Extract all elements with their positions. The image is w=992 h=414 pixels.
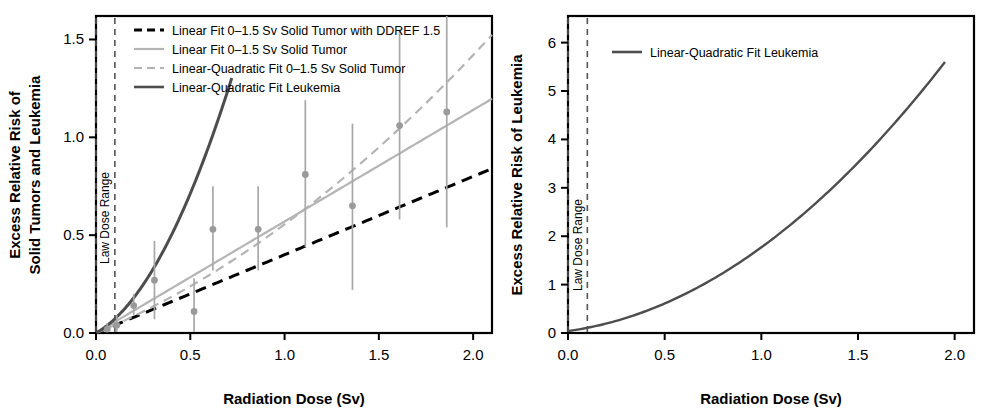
- x-tick-label: 1.0: [274, 346, 295, 363]
- data-point: [130, 302, 137, 309]
- series-line-linquad-solid-tumor: [96, 35, 492, 333]
- y-tick-label: 4: [548, 130, 556, 147]
- low-dose-range-label: Law Dose Range: [98, 172, 112, 264]
- plot-frame: [568, 16, 974, 333]
- x-tick-label: 0.0: [558, 346, 579, 363]
- y-tick-label: 3: [548, 179, 556, 196]
- y-tick-label: 1.0: [63, 128, 84, 145]
- data-point: [255, 226, 262, 233]
- y-tick-label: 5: [548, 82, 556, 99]
- legend-label: Linear-Quadratic Fit Leukemia: [172, 81, 340, 95]
- series-group: [96, 35, 492, 333]
- left-plot-svg: Law Dose Range 0.00.51.01.52.0 0.00.51.0…: [0, 0, 500, 414]
- legend: Linear-Quadratic Fit Leukemia: [612, 46, 818, 60]
- y-tick-label: 1.5: [63, 30, 84, 47]
- y-tick-label: 0.0: [63, 324, 84, 341]
- chart-panel-left: Law Dose Range 0.00.51.01.52.0 0.00.51.0…: [0, 0, 500, 414]
- y-tick-label: 1: [548, 276, 556, 293]
- x-tick-label: 2.0: [463, 346, 484, 363]
- y-tick-label: 2: [548, 227, 556, 244]
- x-tick-label: 0.5: [654, 346, 675, 363]
- data-point: [302, 171, 309, 178]
- y-tick-labels: 0.00.51.01.5: [63, 30, 84, 341]
- data-point: [104, 326, 111, 333]
- series-line-linquad-leukemia: [568, 62, 945, 331]
- y-tick-labels: 0123456: [548, 34, 556, 341]
- low-dose-range-label: Law Dose Range: [571, 199, 585, 291]
- data-point: [396, 122, 403, 129]
- series-line-linear-ddref: [96, 169, 492, 333]
- data-point: [349, 202, 356, 209]
- y-axis-title-line1: Excess Relative Risk of: [6, 90, 23, 259]
- series-line-linquad-leukemia: [96, 78, 232, 333]
- x-tick-labels: 0.00.51.01.52.0: [558, 346, 966, 363]
- data-point: [210, 226, 217, 233]
- x-tick-label: 1.5: [848, 346, 869, 363]
- x-axis-title: Radiation Dose (Sv): [700, 390, 842, 407]
- y-axis-title-line2: Solid Tumors and Leukemia: [26, 75, 43, 275]
- x-axis-title: Radiation Dose (Sv): [223, 390, 365, 407]
- chart-panel-right: Law Dose Range 0.00.51.01.52.0 0123456 R…: [500, 0, 992, 414]
- x-tick-label: 0.5: [180, 346, 201, 363]
- legend-label: Linear Fit 0–1.5 Sv Solid Tumor: [172, 43, 347, 57]
- data-point: [151, 277, 158, 284]
- x-tick-label: 1.5: [368, 346, 389, 363]
- right-plot-svg: Law Dose Range 0.00.51.01.52.0 0123456 R…: [500, 0, 992, 414]
- low-dose-range-band: Law Dose Range: [568, 18, 587, 332]
- data-point: [113, 322, 120, 329]
- legend-label: Linear Fit 0–1.5 Sv Solid Tumor with DDR…: [172, 24, 440, 38]
- legend-label: Linear-Quadratic Fit 0–1.5 Sv Solid Tumo…: [172, 62, 405, 76]
- y-tick-label: 0.5: [63, 226, 84, 243]
- legend-label: Linear-Quadratic Fit Leukemia: [650, 46, 818, 60]
- legend: Linear Fit 0–1.5 Sv Solid Tumor with DDR…: [134, 24, 440, 95]
- y-axis-title: Excess Relative Risk of Leukemia: [508, 54, 525, 296]
- x-tick-label: 1.0: [751, 346, 772, 363]
- x-tick-label: 0.0: [86, 346, 107, 363]
- x-tick-label: 2.0: [944, 346, 965, 363]
- axis-ticks: [561, 43, 955, 340]
- figure-canvas: Law Dose Range 0.00.51.01.52.0 0.00.51.0…: [0, 0, 992, 414]
- data-point: [443, 108, 450, 115]
- low-dose-range-band: Law Dose Range: [96, 18, 115, 332]
- x-tick-labels: 0.00.51.01.52.0: [86, 346, 484, 363]
- data-point: [191, 308, 198, 315]
- y-tick-label: 6: [548, 34, 556, 51]
- series-line-linear-solid-tumor: [96, 99, 492, 333]
- y-tick-label: 0: [548, 324, 556, 341]
